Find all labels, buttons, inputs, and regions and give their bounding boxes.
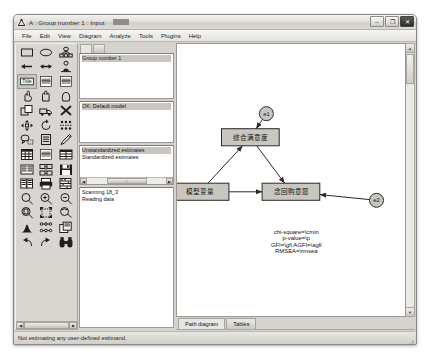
list-variables-in-model-icon[interactable] [37, 74, 57, 89]
select-data-file-icon[interactable] [17, 147, 37, 162]
loupe-icon[interactable] [56, 206, 76, 221]
svg-text:Title: Title [22, 78, 31, 84]
draw-covariance-icon[interactable] [37, 60, 57, 75]
zoom-out-icon[interactable] [56, 191, 76, 206]
resize-grip[interactable] [405, 334, 414, 343]
menu-file[interactable]: File [18, 33, 36, 39]
fit-caption-line-1: p-value=\p [282, 235, 310, 241]
info-column: Group number 1 OK: Default model Unstand… [79, 43, 174, 330]
group-list-item[interactable]: Group number 1 [82, 55, 171, 62]
preserve-symmetries-icon[interactable] [37, 162, 57, 177]
view-item-standardized[interactable]: Standardized estimates [82, 154, 171, 161]
path-diagram-canvas[interactable]: 综合满意度 模型变量 念回购意愿 e1 e2chi-square=\cminp-… [176, 43, 406, 317]
erase-objects-icon[interactable] [56, 103, 76, 118]
menu-plugins[interactable]: Plugins [157, 33, 185, 39]
tab-tables[interactable]: Tables [226, 318, 256, 329]
canvas-scroll-thumb[interactable] [406, 54, 414, 84]
reflect-indicators-icon[interactable] [56, 118, 76, 133]
redo-icon[interactable] [37, 235, 57, 250]
tab-path-diagram[interactable]: Path diagram [178, 318, 225, 329]
analysis-properties-icon[interactable] [37, 147, 57, 162]
path-n1-to-n3 [257, 146, 285, 183]
views-scroll-left-arrow[interactable]: ◀ [80, 178, 87, 184]
save-icon[interactable] [56, 162, 76, 177]
status-line-scanning: Scanning 18_3 [82, 189, 171, 196]
tool-palette-hscrollbar[interactable]: ◀ ▶ [16, 321, 77, 329]
print-icon[interactable] [37, 176, 57, 191]
search-icon[interactable] [56, 235, 76, 250]
window-body: Title ◀ ▶ Group number 1 OK: Default mod… [14, 42, 416, 331]
status-line-reading: Reading data [82, 196, 171, 203]
undo-icon[interactable] [17, 235, 37, 250]
object-properties-icon[interactable] [56, 147, 76, 162]
close-button[interactable]: ✕ [400, 16, 414, 27]
canvas-scroll-up-arrow[interactable]: ▲ [406, 44, 414, 53]
svg-text:综合满意度: 综合满意度 [233, 133, 268, 142]
process-status-panel: Scanning 18_3 Reading data [79, 187, 174, 328]
figure-caption-icon[interactable]: Title [17, 74, 37, 89]
error-term-e2: e2 [370, 193, 384, 207]
zoom-page-icon[interactable] [17, 206, 37, 221]
multiple-group-analysis-icon[interactable] [17, 176, 37, 191]
touch-up-variable-icon[interactable] [56, 133, 76, 148]
draw-observed-variable-icon[interactable] [17, 45, 37, 60]
calculate-estimates-icon[interactable] [56, 176, 76, 191]
amos-app-icon [17, 18, 26, 27]
print-copies-icon[interactable] [56, 220, 76, 235]
groups-panel[interactable]: Group number 1 [79, 53, 174, 99]
zoom-icon[interactable] [17, 191, 37, 206]
views-scroll-track-2[interactable] [147, 178, 167, 184]
scroll-right-arrow[interactable]: ▶ [69, 322, 77, 329]
maximize-button[interactable]: ❐ [385, 16, 399, 27]
canvas-scroll-down-arrow[interactable]: ▼ [406, 307, 414, 316]
latent-node-top: 综合满意度 [222, 129, 280, 146]
duplicate-objects-icon[interactable] [17, 103, 37, 118]
error-term-e1: e1 [259, 107, 273, 121]
diagram-view-tabs: Path diagram Tables [176, 318, 415, 330]
deselect-all-objects-icon[interactable] [56, 89, 76, 104]
move-parameter-icon[interactable] [17, 133, 37, 148]
drag-properties-icon[interactable] [17, 162, 37, 177]
canvas-scroll-track[interactable] [406, 85, 414, 307]
menu-tools[interactable]: Tools [135, 33, 157, 39]
menu-edit[interactable]: Edit [36, 33, 54, 39]
rotate-indicators-icon[interactable] [37, 118, 57, 133]
menu-diagram[interactable]: Diagram [75, 33, 106, 39]
status-bar: Not estimating any user-defined estimand… [14, 331, 416, 344]
views-scroll-track[interactable] [87, 178, 107, 184]
scroll-diagram-icon[interactable] [37, 133, 57, 148]
scroll-thumb[interactable] [24, 322, 69, 329]
multiple-models-icon[interactable] [37, 220, 57, 235]
draw-path-icon[interactable] [17, 60, 37, 75]
change-shape-icon[interactable] [17, 118, 37, 133]
scroll-left-arrow[interactable]: ◀ [16, 322, 24, 329]
draw-unobserved-variable-icon[interactable] [37, 45, 57, 60]
add-unique-variable-icon[interactable] [56, 60, 76, 75]
canvas-wrap: 综合满意度 模型变量 念回购意愿 e1 e2chi-square=\cminp-… [176, 43, 415, 317]
view-item-unstandardized[interactable]: Unstandardized estimates [82, 147, 171, 154]
models-panel[interactable]: OK: Default model [79, 101, 174, 143]
bayesian-estimation-icon[interactable] [17, 220, 37, 235]
minimize-button[interactable]: – [370, 16, 384, 27]
canvas-vscrollbar[interactable]: ▲ ▼ [406, 43, 415, 317]
views-scroll-thumb[interactable]: ≡ [107, 178, 147, 184]
model-list-item[interactable]: OK: Default model [82, 103, 171, 110]
menu-analyze[interactable]: Analyze [106, 33, 135, 39]
info-tab-1[interactable] [80, 44, 92, 53]
menu-view[interactable]: View [54, 33, 75, 39]
menu-help[interactable]: Help [185, 33, 205, 39]
list-variables-in-dataset-icon[interactable] [56, 74, 76, 89]
status-bar-text: Not estimating any user-defined estimand… [18, 335, 127, 341]
views-panel-hscrollbar[interactable]: ◀ ≡ ▶ [80, 177, 173, 184]
info-tab-2[interactable] [93, 44, 105, 53]
svg-text:模型变量: 模型变量 [186, 187, 214, 196]
fit-to-page-icon[interactable] [37, 206, 57, 221]
select-all-objects-icon[interactable] [37, 89, 57, 104]
svg-text:e1: e1 [263, 111, 269, 117]
select-one-object-icon[interactable] [17, 89, 37, 104]
output-views-panel[interactable]: Unstandardized estimates Standardized es… [79, 145, 174, 185]
draw-latent-with-indicators-icon[interactable] [56, 45, 76, 60]
move-objects-icon[interactable] [37, 103, 57, 118]
views-scroll-right-arrow[interactable]: ▶ [166, 178, 173, 184]
zoom-in-icon[interactable] [37, 191, 57, 206]
